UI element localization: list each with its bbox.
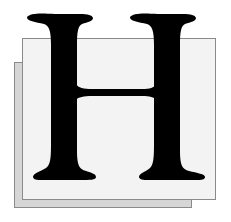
letter-h-glyph: H — [0, 0, 231, 222]
drop-cap-graphic: H — [0, 0, 231, 222]
